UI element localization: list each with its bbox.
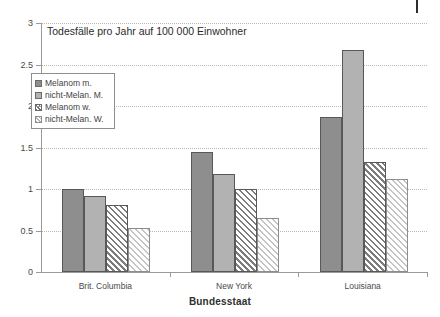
x-axis-category-label: Brit. Columbia	[79, 281, 132, 291]
chart-legend: Melanom m. nicht-Melan. M. Melanom w. ni…	[31, 73, 115, 129]
y-axis-tick-label: 2.5	[20, 60, 33, 69]
y-axis-tick-label: 0	[28, 268, 33, 277]
x-axis-tick	[170, 272, 171, 277]
legend-label: nicht-Melan. W.	[45, 113, 104, 125]
y-axis-tick	[36, 231, 41, 232]
x-axis-category-label: New York	[216, 281, 252, 291]
chart-title: Todesfälle pro Jahr auf 100 000 Einwohne…	[47, 25, 247, 37]
bar-chart: 00.511.522.53 Todesfälle pro Jahr auf 10…	[0, 0, 440, 317]
legend-label: Melanom m.	[45, 77, 92, 89]
bar	[320, 117, 342, 272]
y-axis-tick-label: 1	[28, 185, 33, 194]
legend-label: Melanom w.	[45, 101, 90, 113]
bar	[235, 189, 257, 272]
x-axis-tick	[427, 272, 428, 277]
bar	[191, 152, 213, 272]
legend-label: nicht-Melan. M.	[45, 89, 103, 101]
bar	[213, 174, 235, 272]
y-axis-tick	[36, 272, 41, 273]
legend-item: Melanom m.	[35, 77, 110, 89]
legend-swatch-icon	[35, 104, 42, 111]
bar	[342, 50, 364, 272]
bar	[62, 189, 84, 272]
x-axis-title: Bundesstaat	[0, 296, 440, 307]
bar-groups	[42, 23, 427, 272]
bar-group	[42, 23, 171, 272]
y-axis-tick-label: 0.5	[20, 226, 33, 235]
y-axis-tick	[36, 189, 41, 190]
legend-item: Melanom w.	[35, 101, 110, 113]
legend-item: nicht-Melan. M.	[35, 89, 110, 101]
legend-swatch-icon	[35, 92, 42, 99]
bar	[106, 205, 128, 272]
y-axis-tick	[36, 148, 41, 149]
y-axis-labels: 00.511.522.53	[0, 0, 33, 317]
bar	[364, 162, 386, 272]
bar	[257, 218, 279, 272]
bar-group	[171, 23, 300, 272]
x-axis-tick	[298, 272, 299, 277]
y-axis-tick	[36, 65, 41, 66]
bar	[128, 228, 150, 272]
bar-group	[299, 23, 428, 272]
legend-swatch-icon	[35, 116, 42, 123]
y-axis-tick-label: 3	[28, 19, 33, 28]
x-axis-line	[41, 272, 428, 273]
bar	[386, 179, 408, 272]
legend-swatch-icon	[35, 80, 42, 87]
legend-item: nicht-Melan. W.	[35, 113, 110, 125]
bar	[84, 196, 106, 272]
y-axis-tick-label: 1.5	[20, 143, 33, 152]
x-axis-category-label: Louisiana	[344, 281, 380, 291]
y-axis-tick	[36, 106, 41, 107]
corner-tick-mark	[416, 0, 418, 13]
y-axis-tick	[36, 23, 41, 24]
